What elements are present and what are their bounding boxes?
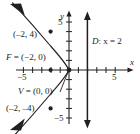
parabola-arrow-lower	[10, 119, 25, 131]
directrix-equation: : x = 2	[99, 36, 122, 46]
y-tick-label-5: 5	[58, 18, 63, 27]
label-point-lower: (–2, –4)	[6, 104, 35, 113]
x-axis-label: x	[130, 58, 134, 67]
x-tick-label-neg5: −5	[17, 73, 27, 82]
x-tick-label-5: 5	[112, 73, 117, 82]
y-tick-label-neg5: −5	[54, 114, 64, 123]
coordinate-plane-graphic	[0, 0, 140, 134]
point-focus-marker	[49, 68, 53, 72]
label-focus: F = (−2, 0)	[6, 53, 46, 62]
label-point-upper: (–2, 4)	[13, 30, 37, 39]
point-vertex-marker	[67, 68, 72, 73]
parabola-arrow-upper	[10, 4, 25, 16]
label-vertex: V = (0, 0)	[18, 87, 53, 96]
figure-parabola-with-directrix: (–2, 4) F = (−2, 0) V = (0, 0) (–2, –4) …	[0, 0, 140, 134]
point-upper-marker	[49, 30, 53, 34]
label-directrix: D: x = 2	[92, 37, 122, 46]
point-lower-marker	[49, 106, 53, 110]
